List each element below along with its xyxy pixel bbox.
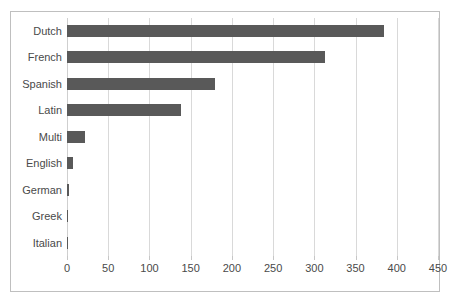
bar-row xyxy=(67,44,438,70)
tick-label-350: 350 xyxy=(346,262,364,274)
tick-mark-350 xyxy=(356,256,357,260)
bar-dutch[interactable] xyxy=(67,25,384,37)
bar-english[interactable] xyxy=(67,157,73,169)
category-label-greek: Greek xyxy=(11,203,62,229)
bar-row xyxy=(67,203,438,229)
bar-row xyxy=(67,150,438,176)
bar-spanish[interactable] xyxy=(67,78,215,90)
tick-mark-200 xyxy=(232,256,233,260)
category-label-spanish: Spanish xyxy=(11,71,62,97)
category-label-italian: Italian xyxy=(11,230,62,256)
tick-mark-250 xyxy=(273,256,274,260)
value-axis: 050100150200250300350400450 xyxy=(67,256,438,286)
bar-latin[interactable] xyxy=(67,104,181,116)
tick-label-250: 250 xyxy=(264,262,282,274)
tick-label-100: 100 xyxy=(140,262,158,274)
bar-row xyxy=(67,97,438,123)
tick-mark-300 xyxy=(314,256,315,260)
tick-mark-450 xyxy=(438,256,439,260)
bar-greek[interactable] xyxy=(67,210,68,222)
bar-italian[interactable] xyxy=(67,237,68,249)
tick-label-50: 50 xyxy=(102,262,114,274)
bar-german[interactable] xyxy=(67,184,69,196)
category-label-multi: Multi xyxy=(11,124,62,150)
bar-multi[interactable] xyxy=(67,131,85,143)
tick-mark-400 xyxy=(397,256,398,260)
tick-label-450: 450 xyxy=(429,262,447,274)
tick-label-150: 150 xyxy=(181,262,199,274)
tick-label-200: 200 xyxy=(223,262,241,274)
tick-mark-50 xyxy=(108,256,109,260)
category-label-latin: Latin xyxy=(11,97,62,123)
bar-row xyxy=(67,230,438,256)
gridline-450 xyxy=(438,18,439,256)
category-axis-labels: DutchFrenchSpanishLatinMultiEnglishGerma… xyxy=(11,18,62,256)
tick-label-300: 300 xyxy=(305,262,323,274)
bar-row xyxy=(67,71,438,97)
bar-series xyxy=(67,18,438,256)
tick-label-400: 400 xyxy=(388,262,406,274)
category-label-english: English xyxy=(11,150,62,176)
bar-row xyxy=(67,124,438,150)
bar-row xyxy=(67,177,438,203)
category-label-dutch: Dutch xyxy=(11,18,62,44)
tick-mark-150 xyxy=(191,256,192,260)
tick-mark-0 xyxy=(67,256,68,260)
tick-label-0: 0 xyxy=(64,262,70,274)
bar-chart-figure: DutchFrenchSpanishLatinMultiEnglishGerma… xyxy=(10,11,440,292)
bar-french[interactable] xyxy=(67,51,325,63)
tick-mark-100 xyxy=(149,256,150,260)
bar-row xyxy=(67,18,438,44)
category-label-french: French xyxy=(11,44,62,70)
plot-area xyxy=(67,18,438,256)
category-label-german: German xyxy=(11,177,62,203)
